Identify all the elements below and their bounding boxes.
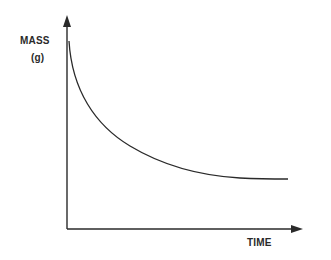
y-axis-arrow-icon [63, 15, 71, 27]
x-axis-arrow-icon [291, 225, 303, 233]
y-axis-label: MASS [20, 35, 50, 46]
x-axis-label: TIME [247, 237, 272, 248]
decay-curve [69, 41, 288, 179]
y-axis-unit-label: (g) [31, 52, 44, 63]
